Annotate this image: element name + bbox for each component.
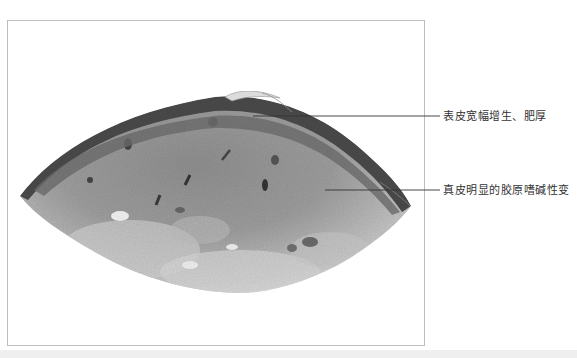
annotation-dermis-basophilic-degeneration: 真皮明显的胶原嗜碱性变: [443, 184, 570, 197]
tissue-body: [20, 91, 411, 294]
tissue-section-image: [0, 0, 577, 358]
annotation-epidermis-hyperplasia: 表皮宽幅增生、肥厚: [443, 110, 547, 123]
bottom-band: [0, 350, 577, 358]
